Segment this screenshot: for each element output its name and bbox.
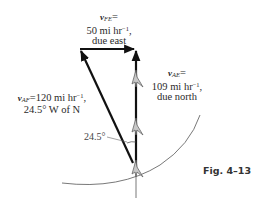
airplane-icon	[132, 70, 143, 87]
vector-af-label: vAF=120 mi hr−1, 24.5° W of N	[6, 91, 98, 115]
angle-leader-line	[107, 137, 127, 142]
angle-arc	[127, 142, 136, 143]
vector-fe-label: vFE= 50 mi hr−1, due east	[78, 12, 140, 46]
flight-path-arc	[62, 115, 200, 185]
vector-ae-label: vAE= 109 mi hr−1, due north	[146, 68, 208, 102]
figure-caption: Fig. 4–13	[203, 165, 251, 176]
airplane-icon	[132, 118, 143, 135]
angle-label: 24.5°	[84, 131, 106, 142]
